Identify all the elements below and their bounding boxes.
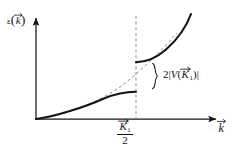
K-vector-accent: K bbox=[119, 121, 127, 133]
gap-argument: K bbox=[182, 68, 189, 80]
lower-band-curve bbox=[36, 92, 136, 119]
k-vector-accent: k bbox=[15, 15, 21, 26]
y-axis-label: ε(k) bbox=[7, 13, 25, 26]
gap-brace bbox=[153, 64, 158, 89]
upper-band-curve bbox=[136, 14, 191, 62]
band-structure-figure: ε(k) k K1 2 2|V(K1)| bbox=[0, 0, 244, 160]
gap-prefix: 2| bbox=[163, 68, 171, 80]
x-axis-label-variable: k bbox=[219, 121, 224, 135]
gap-suffix: | bbox=[197, 68, 199, 80]
fraction-numerator: K1 bbox=[117, 121, 133, 135]
y-axis-label-variable: k bbox=[16, 14, 21, 26]
fraction: K1 2 bbox=[117, 121, 133, 147]
free-electron-parabola bbox=[36, 33, 177, 119]
x-axis-label: k bbox=[218, 122, 224, 134]
fraction-numerator-symbol: K bbox=[120, 120, 127, 132]
band-gap-annotation: 2|V(K1)| bbox=[163, 69, 199, 82]
K-vector-accent-gap: K bbox=[181, 69, 189, 80]
zone-boundary-tick-label: K1 2 bbox=[117, 121, 133, 147]
k-vector-accent-x: k bbox=[218, 122, 224, 134]
fraction-numerator-subscript: 1 bbox=[127, 126, 131, 134]
fraction-denominator: 2 bbox=[117, 135, 133, 147]
